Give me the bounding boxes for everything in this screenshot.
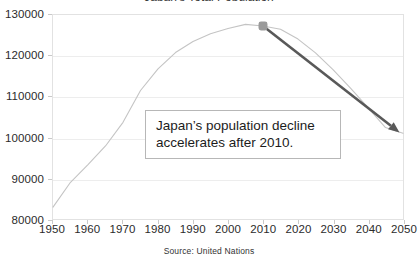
annotation-callout: Japan’s population decline accelerates a… <box>145 110 341 159</box>
x-axis-tick-label: 2000 <box>215 223 241 235</box>
x-axis-tick-label: 2050 <box>391 223 417 235</box>
x-axis-tick-label: 1980 <box>145 223 171 235</box>
x-axis-tick-label: 2030 <box>321 223 347 235</box>
peak-marker <box>259 22 268 31</box>
x-axis-tick-label: 2020 <box>285 223 311 235</box>
y-axis-tick-label: 90000 <box>12 173 44 185</box>
y-axis-tick-label: 100000 <box>5 132 44 144</box>
chart-title: Japan's Total Population <box>0 0 418 1</box>
annotation-line: accelerates after 2010. <box>156 134 331 151</box>
annotation-line: Japan’s population decline <box>156 117 331 134</box>
x-axis-tick-label: 1990 <box>180 223 206 235</box>
y-axis-tick-label: 110000 <box>6 90 44 102</box>
x-axis-tick-label: 2010 <box>250 223 276 235</box>
x-axis-tick-label: 1950 <box>39 223 65 235</box>
y-axis-tick-label: 130000 <box>5 8 44 20</box>
x-axis-labels: 1950 1960 1970 1980 1990 2000 2010 2020 … <box>52 222 404 240</box>
x-axis-tick-label: 1960 <box>74 223 100 235</box>
population-chart: Japan's Total Population 80000 90000 100… <box>0 0 418 266</box>
source-caption: Source: United Nations <box>0 246 418 256</box>
y-axis-labels: 80000 90000 100000 110000 120000 130000 <box>0 14 48 220</box>
y-axis-tick-label: 120000 <box>5 49 44 61</box>
x-axis-tick-label: 1970 <box>109 223 135 235</box>
x-axis-tick-label: 2040 <box>356 223 382 235</box>
